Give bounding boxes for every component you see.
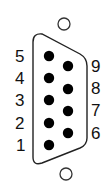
d-shell-outline (33, 34, 87, 164)
pin-6 (63, 128, 73, 138)
pin-label-1: 1 (16, 136, 25, 155)
bottom-mounting-hole-icon (60, 168, 72, 180)
pin-label-8: 8 (91, 79, 100, 98)
pin-7 (63, 106, 73, 116)
pin-label-6: 6 (91, 124, 100, 143)
pin-3 (44, 95, 54, 105)
pin-4 (44, 73, 54, 83)
pin-5 (44, 51, 54, 61)
pin-8 (63, 84, 73, 94)
pin-label-9: 9 (91, 57, 100, 76)
pin-label-4: 4 (15, 69, 24, 88)
pin-1 (44, 140, 54, 150)
pin-2 (44, 118, 54, 128)
pin-label-2: 2 (15, 114, 24, 133)
pin-9 (63, 61, 73, 71)
db9-pinout-diagram: 5 4 3 2 1 9 8 7 6 (0, 0, 112, 191)
top-mounting-hole-icon (58, 18, 70, 30)
pin-label-5: 5 (15, 47, 24, 66)
pin-label-7: 7 (91, 101, 100, 120)
pin-label-3: 3 (15, 91, 24, 110)
